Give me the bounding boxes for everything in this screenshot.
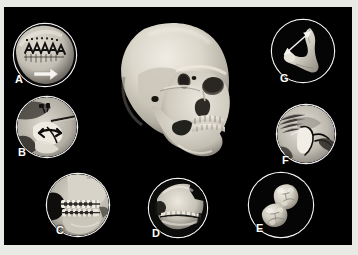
- panel-label-c: C: [56, 225, 64, 236]
- figure-black-plate: A: [4, 7, 352, 245]
- panel-label-e: E: [256, 223, 264, 234]
- panel-a-image: [14, 24, 76, 86]
- panel-label-f: F: [282, 155, 289, 166]
- panel-label-a: A: [15, 74, 23, 85]
- skull-3d-reconstruction: [108, 15, 236, 185]
- panel-a: [14, 24, 76, 86]
- panel-label-d: D: [152, 228, 160, 239]
- figure-container: A: [0, 0, 358, 255]
- panel-label-b: B: [18, 147, 26, 158]
- panel-label-g: G: [280, 73, 289, 84]
